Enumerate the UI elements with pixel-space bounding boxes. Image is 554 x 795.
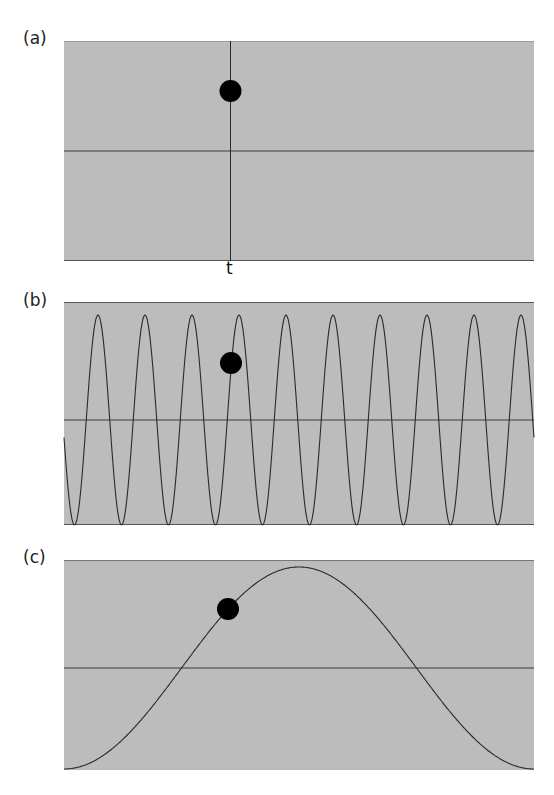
panel-b-plot bbox=[64, 302, 534, 525]
time-label: t bbox=[226, 258, 233, 278]
panel-label-b: (b) bbox=[23, 290, 47, 310]
panel-c bbox=[64, 560, 534, 770]
sample-dot bbox=[217, 598, 239, 620]
panel-b bbox=[64, 302, 534, 525]
sample-dot bbox=[220, 352, 242, 374]
panel-a-plot bbox=[64, 41, 534, 261]
panel-label-a: (a) bbox=[23, 28, 47, 48]
panel-c-plot bbox=[64, 560, 534, 770]
sample-dot bbox=[220, 80, 242, 102]
panel-label-c: (c) bbox=[23, 547, 46, 567]
panel-a bbox=[64, 41, 534, 261]
